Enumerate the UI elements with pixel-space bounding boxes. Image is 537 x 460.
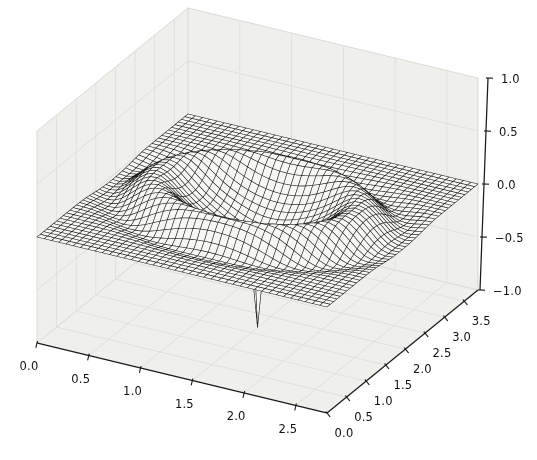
surface-plot-canvas <box>0 0 537 460</box>
figure-3d-surface-plot: 0.00.51.01.52.02.50.00.51.01.52.02.53.03… <box>0 0 537 460</box>
